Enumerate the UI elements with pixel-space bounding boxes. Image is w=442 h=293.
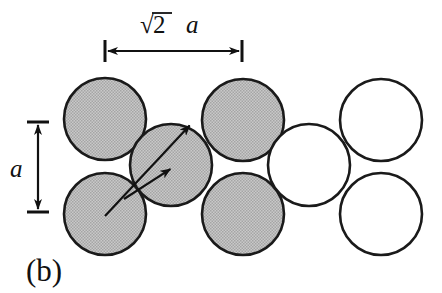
sqrt-radical-icon: √ (140, 11, 154, 38)
panel-label: (b) (26, 253, 62, 288)
figure-panel-b: √ 2 a a (b) (0, 0, 442, 293)
vertical-dimension-group: a (10, 122, 49, 212)
horizontal-dimension-label: √ 2 a (140, 11, 199, 38)
lattice-constant-label-horizontal: a (186, 11, 199, 38)
sphere-bottom-right-open (340, 173, 422, 255)
horizontal-dimension-group: √ 2 a (105, 11, 242, 62)
sphere-middle-stagger-shaded (130, 124, 212, 206)
sphere-bottom-mid-shaded (202, 173, 284, 255)
sphere-group-top-row (64, 78, 422, 161)
sphere-group-bottom-row (64, 173, 422, 255)
lattice-constant-label-vertical: a (10, 155, 23, 182)
close-packed-plane-diagram: √ 2 a a (b) (0, 0, 442, 293)
radicand-label: 2 (153, 11, 166, 38)
sphere-top-right-open (340, 79, 422, 161)
sphere-middle-stagger-open (268, 124, 350, 206)
